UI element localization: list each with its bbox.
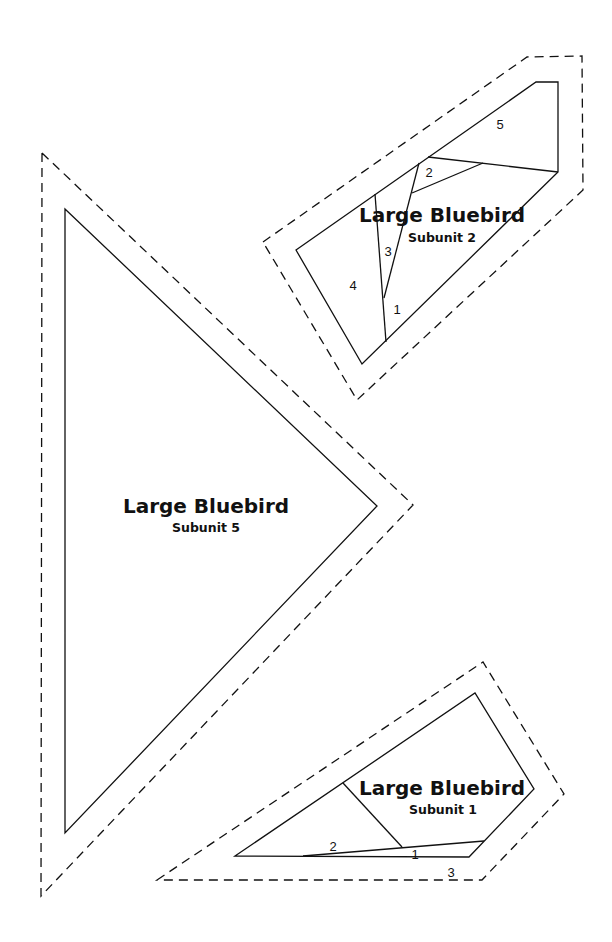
piece-subunit-2: 5 2 3 4 1 Large Bluebird Subunit 2 — [263, 56, 583, 400]
section-number: 5 — [496, 117, 503, 132]
piece-subtitle: Subunit 5 — [172, 520, 240, 535]
piece-subunit-5: Large Bluebird Subunit 5 — [41, 153, 413, 896]
seam-line — [428, 157, 558, 172]
sewing-line — [235, 693, 534, 857]
piece-title: Large Bluebird — [359, 203, 525, 227]
piece-subtitle: Subunit 1 — [409, 802, 477, 817]
piece-title: Large Bluebird — [123, 494, 289, 518]
piece-title: Large Bluebird — [359, 776, 525, 800]
section-number: 2 — [425, 165, 432, 180]
cutting-line — [263, 56, 583, 400]
piece-subtitle: Subunit 2 — [408, 230, 476, 245]
section-number: 1 — [411, 847, 418, 862]
section-number: 1 — [393, 302, 400, 317]
section-number: 3 — [384, 244, 391, 259]
seam-line — [412, 163, 483, 193]
paper-piecing-pattern: Large Bluebird Subunit 5 5 2 3 4 1 Large… — [0, 0, 612, 942]
piece-subunit-1: 2 1 3 Large Bluebird Subunit 1 — [157, 662, 564, 880]
section-number: 4 — [349, 278, 356, 293]
section-number: 2 — [329, 839, 336, 854]
section-number: 3 — [447, 865, 454, 880]
